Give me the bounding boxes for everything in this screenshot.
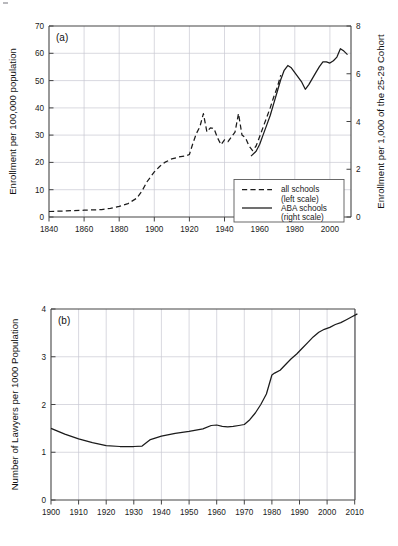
panel-a-x-tick-1840: 1840	[40, 225, 59, 234]
panel-b-y-tick-1: 1	[41, 448, 46, 457]
panel-b-y-tick-2: 2	[41, 401, 46, 410]
panel-b-lawyers: 0 1 2 3 4 1900 1910	[0, 273, 398, 546]
panel-a-right-axis-ticks: 0 2 4 6 8	[347, 22, 362, 222]
panel-a-enrollment: 0 10 20 30 40 50 60 70 0 2 4 6 8	[0, 0, 398, 273]
panel-b-tag: (b)	[58, 315, 70, 326]
panel-a-horizontal-gridlines	[49, 53, 351, 189]
panel-b-x-axis-ticks: 1900 1910 1920 1930 1940 1950 1960 1970 …	[42, 500, 364, 517]
panel-a-left-tick-0: 0	[39, 213, 44, 222]
panel-a-legend: all schools (left scale) ABA schools (ri…	[234, 180, 344, 223]
panel-a-x-tick-1860: 1860	[75, 225, 94, 234]
panel-b-x-tick-1930: 1930	[125, 508, 144, 517]
panel-b-x-tick-1950: 1950	[180, 508, 199, 517]
panel-b-x-tick-1970: 1970	[235, 508, 254, 517]
panel-a-x-tick-1900: 1900	[145, 225, 164, 234]
panel-b-x-tick-1940: 1940	[152, 508, 171, 517]
panel-a-left-tick-60: 60	[35, 49, 45, 58]
panel-b-x-tick-1990: 1990	[290, 508, 309, 517]
series-lawyers-per-1000	[51, 314, 357, 447]
panel-a-right-tick-4: 4	[356, 118, 361, 127]
panel-a-left-tick-10: 10	[35, 186, 45, 195]
panel-b-x-tick-1980: 1980	[263, 508, 282, 517]
panel-b-x-tick-2010: 2010	[346, 508, 365, 517]
panel-a-x-tick-1960: 1960	[251, 225, 270, 234]
panel-b-y-tick-0: 0	[41, 496, 46, 505]
panel-a-left-tick-40: 40	[35, 104, 45, 113]
panel-a-left-tick-30: 30	[35, 131, 45, 140]
panel-b-x-tick-1920: 1920	[97, 508, 116, 517]
panel-b-y-axis-title: Number of Lawyers per 1000 Population	[9, 319, 20, 491]
panel-b-x-tick-1910: 1910	[69, 508, 88, 517]
panel-b-horizontal-gridlines	[51, 357, 355, 453]
panel-a-right-tick-2: 2	[356, 165, 361, 174]
panel-a-right-axis-title: Enrollment per 1,000 of the 25-29 Cohort	[375, 34, 386, 209]
panel-a-left-axis-ticks: 0 10 20 30 40 50 60 70	[35, 22, 54, 222]
panel-a-left-tick-20: 20	[35, 158, 45, 167]
scan-artifact	[3, 2, 8, 4]
legend-label-aba-schools-line1: ABA schools	[281, 204, 327, 213]
panel-a-x-tick-2000: 2000	[321, 225, 340, 234]
panel-a-left-tick-70: 70	[35, 22, 45, 31]
panel-a-x-tick-1880: 1880	[110, 225, 129, 234]
panel-a-right-tick-0: 0	[356, 213, 361, 222]
panel-a-x-tick-1980: 1980	[286, 225, 305, 234]
figure-container: 0 10 20 30 40 50 60 70 0 2 4 6 8	[0, 0, 398, 546]
panel-a-tag: (a)	[56, 32, 68, 43]
panel-a-right-tick-6: 6	[356, 70, 361, 79]
panel-b-x-tick-1900: 1900	[42, 508, 61, 517]
panel-b-y-tick-3: 3	[41, 353, 46, 362]
series-aba-schools	[251, 49, 348, 156]
panel-a-left-tick-50: 50	[35, 77, 45, 86]
legend-label-all-schools-line1: all schools	[281, 185, 319, 194]
panel-b-x-tick-1960: 1960	[208, 508, 227, 517]
panel-b-y-tick-4: 4	[41, 305, 46, 314]
legend-label-aba-schools-line2: (right scale)	[281, 213, 324, 222]
panel-a-x-tick-1940: 1940	[215, 225, 234, 234]
panel-b-svg: 0 1 2 3 4 1900 1910	[0, 273, 398, 546]
panel-a-svg: 0 10 20 30 40 50 60 70 0 2 4 6 8	[0, 0, 398, 273]
panel-a-left-axis-title: Enrollment per 100,000 population	[7, 48, 18, 195]
legend-label-all-schools-line2: (left scale)	[281, 195, 319, 204]
panel-a-x-tick-1920: 1920	[180, 225, 199, 234]
panel-b-x-tick-2000: 2000	[318, 508, 337, 517]
panel-a-right-tick-8: 8	[356, 22, 361, 31]
panel-b-y-axis-ticks: 0 1 2 3 4	[41, 305, 55, 505]
